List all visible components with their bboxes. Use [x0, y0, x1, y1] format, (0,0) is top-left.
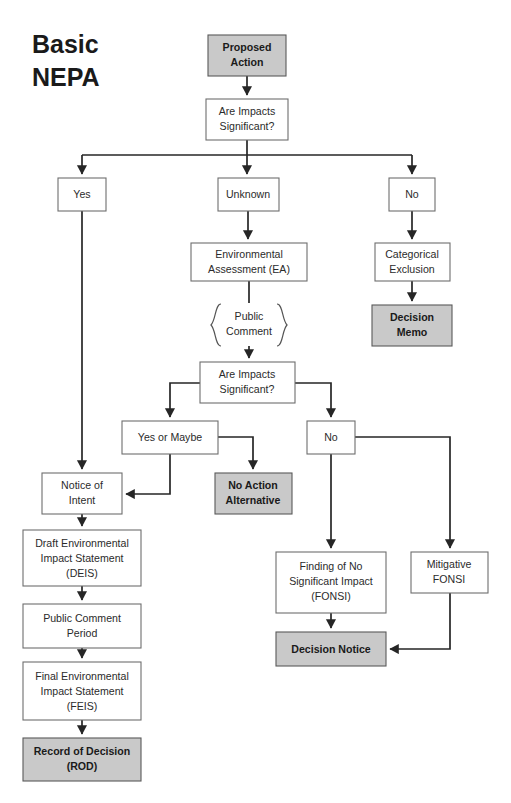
node-are-impacts-2-line-2: Significant?: [220, 383, 275, 395]
node-no-mid-label: No: [324, 431, 338, 443]
node-are-impacts-2-line-1: Are Impacts: [219, 368, 276, 380]
node-decision-memo[interactable]: Decision Memo: [372, 305, 452, 346]
node-no-mid[interactable]: No: [307, 421, 355, 454]
node-no-action-alternative-line-1: No Action: [228, 479, 278, 491]
node-feis-line-1: Final Environmental: [35, 670, 129, 682]
node-environmental-assessment-line-2: Assessment (EA): [208, 263, 290, 275]
node-fonsi-line-3: (FONSI): [311, 590, 350, 602]
edge-mitigative-fonsi-to-decision-notice: [390, 593, 450, 649]
node-no-top-label: No: [405, 188, 419, 200]
node-decision-notice[interactable]: Decision Notice: [276, 632, 386, 666]
node-no-action-alternative-line-2: Alternative: [226, 494, 281, 506]
node-yes-or-maybe-label: Yes or Maybe: [138, 431, 202, 443]
node-categorical-exclusion-line-1: Categorical: [385, 248, 439, 260]
node-yes-label: Yes: [73, 188, 90, 200]
node-feis-line-3: (FEIS): [67, 700, 98, 712]
page-title: Basic NEPA: [32, 30, 100, 91]
node-decision-notice-label: Decision Notice: [291, 643, 371, 655]
node-proposed-action-line-1: Proposed: [223, 41, 272, 53]
node-decision-memo-line-1: Decision: [390, 311, 434, 323]
node-feis-line-2: Impact Statement: [40, 685, 123, 697]
flowchart-canvas: Basic NEPA: [0, 0, 511, 803]
node-notice-of-intent-line-1: Notice of: [61, 479, 103, 491]
node-mitigative-fonsi-line-2: FONSI: [433, 573, 465, 585]
node-are-impacts-significant-2[interactable]: Are Impacts Significant?: [200, 362, 295, 403]
node-no-action-alternative[interactable]: No Action Alternative: [215, 473, 292, 514]
node-mitigative-fonsi[interactable]: Mitigative FONSI: [411, 552, 488, 593]
node-fonsi[interactable]: Finding of No Significant Impact (FONSI): [276, 552, 386, 613]
node-notice-of-intent-line-2: Intent: [69, 494, 96, 506]
node-environmental-assessment[interactable]: Environmental Assessment (EA): [191, 243, 307, 281]
node-are-impacts-significant-1[interactable]: Are Impacts Significant?: [206, 99, 288, 140]
node-deis-line-2: Impact Statement: [40, 552, 123, 564]
node-public-comment-brace[interactable]: Public Comment: [211, 304, 287, 346]
node-proposed-action[interactable]: Proposed Action: [208, 35, 286, 76]
node-fonsi-line-2: Significant Impact: [289, 575, 373, 587]
brace-left-icon: [211, 304, 221, 346]
brace-right-icon: [277, 304, 287, 346]
node-decision-memo-line-2: Memo: [397, 326, 428, 338]
node-fonsi-line-1: Finding of No: [299, 560, 362, 572]
node-notice-of-intent[interactable]: Notice of Intent: [42, 473, 122, 514]
edge-yes-or-maybe-to-no-action-alternative: [218, 437, 253, 469]
node-public-comment-period[interactable]: Public Comment Period: [23, 604, 141, 648]
node-proposed-action-line-2: Action: [231, 56, 264, 68]
node-environmental-assessment-line-1: Environmental: [215, 248, 283, 260]
node-rod-line-1: Record of Decision: [34, 745, 131, 757]
node-categorical-exclusion-line-2: Exclusion: [389, 263, 434, 275]
node-feis[interactable]: Final Environmental Impact Statement (FE…: [23, 662, 141, 720]
node-rod[interactable]: Record of Decision (ROD): [23, 738, 141, 781]
title-line-2: NEPA: [32, 63, 100, 91]
title-line-1: Basic: [32, 30, 99, 58]
node-public-comment-line-1: Public: [235, 310, 265, 322]
node-rod-line-2: (ROD): [67, 760, 98, 772]
nepa-flowchart-page: Basic NEPA: [0, 0, 511, 803]
node-public-comment-period-line-1: Public Comment: [43, 612, 121, 624]
edge-yes-or-maybe-to-notice-of-intent: [126, 454, 170, 494]
edge-no-mid-to-mitigative-fonsi: [355, 437, 450, 548]
node-deis-line-3: (DEIS): [66, 567, 98, 579]
node-public-comment-period-line-2: Period: [67, 627, 98, 639]
node-deis-line-1: Draft Environmental: [35, 537, 129, 549]
edge-are-impacts-2-to-no-mid: [295, 383, 331, 417]
node-mitigative-fonsi-line-1: Mitigative: [427, 558, 472, 570]
node-categorical-exclusion[interactable]: Categorical Exclusion: [375, 243, 450, 281]
node-no-top[interactable]: No: [389, 178, 435, 211]
node-yes-or-maybe[interactable]: Yes or Maybe: [122, 421, 218, 454]
node-unknown-label: Unknown: [226, 188, 270, 200]
node-unknown[interactable]: Unknown: [218, 178, 279, 211]
node-public-comment-line-2: Comment: [226, 325, 272, 337]
node-are-impacts-1-line-2: Significant?: [220, 120, 275, 132]
node-yes[interactable]: Yes: [58, 178, 106, 211]
node-are-impacts-1-line-1: Are Impacts: [219, 105, 276, 117]
edge-are-impacts-2-to-yes-or-maybe: [170, 383, 200, 417]
node-deis[interactable]: Draft Environmental Impact Statement (DE…: [23, 530, 141, 586]
